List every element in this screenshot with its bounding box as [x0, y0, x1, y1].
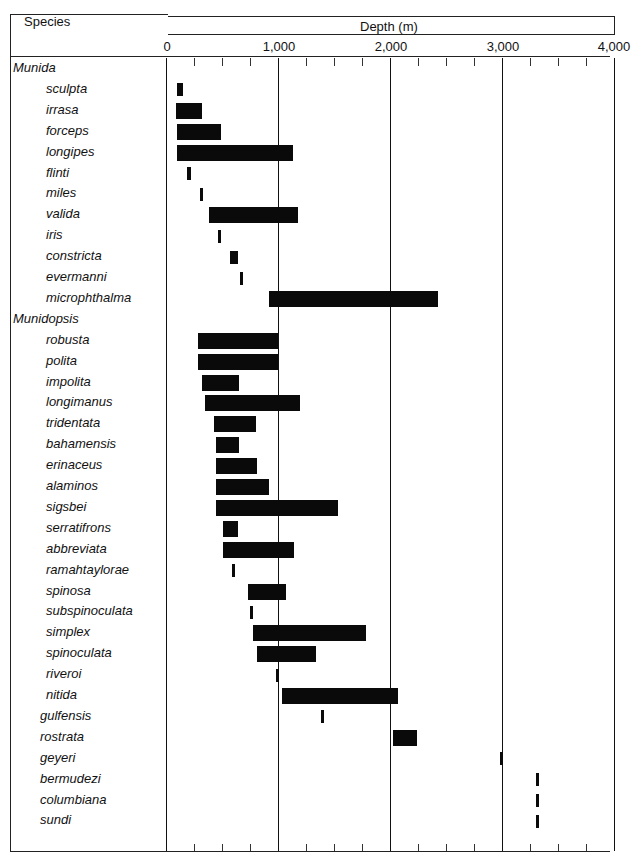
species-label: ramahtaylorae: [46, 562, 129, 577]
species-label: rostrata: [40, 729, 84, 744]
species-label: constricta: [46, 248, 102, 263]
axis-tick-label: 2,000: [375, 39, 408, 54]
species-label: forceps: [46, 123, 89, 138]
depth-range-bar: [500, 752, 503, 765]
plot-bottom-edge: [10, 851, 610, 852]
minor-tick-top: [474, 58, 475, 66]
minor-tick-bottom: [586, 844, 587, 851]
species-label: spinoculata: [46, 645, 112, 660]
species-label: sigsbei: [46, 499, 86, 514]
species-label: evermanni: [46, 269, 107, 284]
minor-tick-bottom: [250, 844, 251, 851]
depth-range-bar: [253, 625, 366, 641]
depth-range-bar: [393, 730, 417, 746]
depth-range-bar: [536, 773, 539, 786]
plot-left-edge: [166, 58, 167, 851]
minor-tick-bottom: [446, 844, 447, 851]
minor-tick-bottom: [418, 844, 419, 851]
species-label: simplex: [46, 624, 90, 639]
depth-range-bar: [276, 669, 279, 682]
depth-range-bar: [187, 167, 190, 180]
depth-range-bar: [223, 542, 294, 558]
species-label: longimanus: [46, 394, 113, 409]
axis-tick-label: 1,000: [263, 39, 296, 54]
minor-tick-top: [306, 58, 307, 66]
depth-range-bar: [177, 124, 221, 140]
depth-range-bar: [250, 606, 253, 619]
minor-tick-top: [530, 58, 531, 66]
header-separator: [10, 56, 610, 57]
depth-range-bar: [177, 145, 292, 161]
species-label: flinti: [46, 165, 69, 180]
minor-tick-bottom: [222, 844, 223, 851]
depth-range-bar: [216, 458, 256, 474]
gridline: [278, 58, 279, 851]
depth-range-bar: [216, 500, 338, 516]
depth-range-bar: [205, 395, 300, 411]
depth-header-underline: [168, 34, 615, 35]
depth-range-bar: [269, 291, 438, 307]
gridline: [390, 58, 391, 851]
species-label: miles: [46, 185, 76, 200]
depth-range-bar: [257, 646, 316, 662]
depth-range-bar: [223, 521, 238, 537]
species-label: serratifrons: [46, 520, 111, 535]
depth-range-bar: [214, 416, 255, 432]
species-label: erinaceus: [46, 457, 102, 472]
minor-tick-top: [418, 58, 419, 66]
minor-tick-bottom: [558, 844, 559, 851]
depth-axis-title: Depth (m): [360, 19, 418, 34]
species-label: robusta: [46, 332, 89, 347]
species-label: nitida: [46, 687, 77, 702]
species-label: iris: [46, 227, 63, 242]
species-label: impolita: [46, 374, 91, 389]
minor-tick-top: [362, 58, 363, 66]
minor-tick-bottom: [194, 844, 195, 851]
depth-range-bar: [536, 794, 539, 807]
minor-tick-top: [334, 58, 335, 66]
species-label: valida: [46, 206, 80, 221]
axis-tick-label: 0: [163, 39, 170, 54]
depth-header-top: [168, 16, 615, 17]
minor-tick-bottom: [474, 844, 475, 851]
minor-tick-top: [222, 58, 223, 66]
depth-range-bar: [536, 815, 539, 828]
species-label: subspinoculata: [46, 603, 133, 618]
depth-range-bar: [202, 375, 239, 391]
depth-range-bar: [176, 103, 202, 119]
gridline: [502, 58, 503, 851]
genus-label: Munidopsis: [13, 311, 79, 326]
depth-range-bar: [240, 272, 243, 285]
species-label: abbreviata: [46, 541, 107, 556]
depth-range-bar: [198, 333, 278, 349]
species-label: tridentata: [46, 415, 100, 430]
minor-tick-bottom: [306, 844, 307, 851]
axis-tick-label: 4,000: [598, 39, 631, 54]
minor-tick-top: [586, 58, 587, 66]
minor-tick-bottom: [362, 844, 363, 851]
minor-tick-top: [446, 58, 447, 66]
depth-header-right: [614, 16, 615, 35]
species-label: spinosa: [46, 583, 91, 598]
depth-range-bar: [232, 564, 235, 577]
species-label: irrasa: [46, 102, 79, 117]
depth-range-bar: [282, 688, 397, 704]
species-label: polita: [46, 353, 77, 368]
minor-tick-bottom: [530, 844, 531, 851]
genus-label: Munida: [13, 60, 56, 75]
species-label: gulfensis: [40, 708, 91, 723]
axis-tick-label: 3,000: [487, 39, 520, 54]
species-column-header: Species: [24, 14, 70, 29]
species-label: alaminos: [46, 478, 98, 493]
species-label: riveroi: [46, 666, 81, 681]
outer-frame: [10, 14, 610, 852]
species-label: sundi: [40, 812, 71, 827]
depth-range-bar: [216, 437, 238, 453]
depth-range-bar: [218, 230, 221, 243]
depth-range-bar: [200, 188, 203, 201]
depth-range-bar: [198, 354, 278, 370]
species-label: bermudezi: [40, 771, 101, 786]
depth-range-bar: [216, 479, 269, 495]
depth-range-bar: [209, 207, 299, 223]
species-label: sculpta: [46, 81, 87, 96]
